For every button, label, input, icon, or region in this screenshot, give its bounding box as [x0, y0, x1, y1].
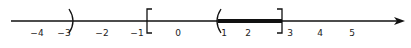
axis	[11, 17, 405, 25]
tick-label: 2	[245, 28, 251, 38]
tick-label: 5	[349, 28, 355, 38]
tick-label: −2	[95, 28, 108, 38]
tick-label: 4	[317, 28, 323, 38]
tick-label: −3	[57, 28, 70, 38]
tick-label: 1	[221, 28, 227, 38]
tick-label: 0	[175, 28, 181, 38]
tick-label: 3	[287, 28, 293, 38]
tick-label: −4	[30, 28, 44, 38]
tick-label: −1	[130, 28, 143, 38]
number-line: −4−3−2−1012345	[0, 0, 411, 48]
tick-labels: −4−3−2−1012345	[30, 28, 355, 38]
